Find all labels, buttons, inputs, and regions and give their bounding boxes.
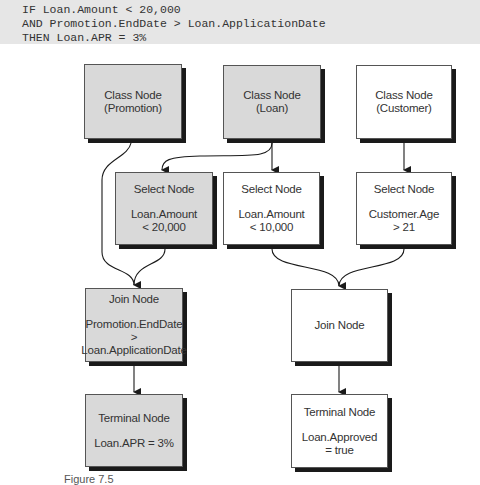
node-title: Select Node xyxy=(241,183,301,196)
node-title: Terminal Node xyxy=(98,412,170,425)
node-detail: Promotion.EndDate > Loan.ApplicationDate xyxy=(81,318,186,357)
edge-select-20000-to-join xyxy=(134,249,165,285)
node-title: Class Node xyxy=(104,89,161,102)
edge-loan-to-select-20000 xyxy=(162,143,272,170)
select-node-loan-amount-20000: Select Node Loan.Amount < 20,000 xyxy=(115,172,213,245)
join-node-loan-customer: Join Node xyxy=(291,289,388,362)
node-title: Class Node xyxy=(243,89,300,102)
terminal-node-approved: Terminal Node Loan.Approved = true xyxy=(291,394,388,468)
node-detail: Loan.Amount < 20,000 xyxy=(131,208,197,234)
node-title: Select Node xyxy=(134,183,194,196)
edge-select-age-to-join2 xyxy=(339,249,404,286)
node-title: Join Node xyxy=(109,293,159,306)
figure-caption: Figure 7.5 xyxy=(64,473,114,485)
select-node-loan-amount-10000: Select Node Loan.Amount < 10,000 xyxy=(223,172,320,245)
node-detail: (Promotion) xyxy=(104,102,162,115)
node-title: Class Node xyxy=(375,89,432,102)
class-node-promotion: Class Node (Promotion) xyxy=(84,64,182,139)
node-detail: Customer.Age > 21 xyxy=(369,208,439,234)
node-detail: Loan.APR = 3% xyxy=(94,437,174,450)
node-title: Select Node xyxy=(374,183,434,196)
node-detail: (Loan) xyxy=(256,102,288,115)
join-node-promotion-loan: Join Node Promotion.EndDate > Loan.Appli… xyxy=(85,288,183,362)
class-node-loan: Class Node (Loan) xyxy=(223,65,321,139)
terminal-node-apr: Terminal Node Loan.APR = 3% xyxy=(85,394,183,467)
node-title: Join Node xyxy=(315,319,365,332)
select-node-customer-age: Select Node Customer.Age > 21 xyxy=(356,172,452,245)
edge-select-10000-to-join2 xyxy=(272,249,339,286)
node-title: Terminal Node xyxy=(304,406,376,419)
node-detail: (Customer) xyxy=(376,102,432,115)
node-detail: Loan.Amount < 10,000 xyxy=(238,208,304,234)
node-detail: Loan.Approved = true xyxy=(302,431,377,457)
class-node-customer: Class Node (Customer) xyxy=(356,65,452,139)
